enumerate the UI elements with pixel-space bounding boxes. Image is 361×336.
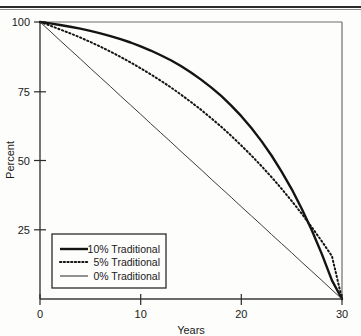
y-tick-label-75: 75 <box>18 86 30 98</box>
x-tick-label-10: 10 <box>135 308 147 320</box>
y-tick-label-25: 25 <box>18 224 30 236</box>
y-tick-label-50: 50 <box>18 155 30 167</box>
x-axis-title: Years <box>177 324 205 336</box>
legend-label-5-percent: 5% Traditional <box>93 256 160 268</box>
line-chart: 100 75 50 25 0 10 20 30 Years Percent 10… <box>0 0 361 336</box>
x-tick-label-30: 30 <box>336 308 348 320</box>
y-tick-label-100: 100 <box>12 16 30 28</box>
legend[interactable]: 10% Traditional 5% Traditional 0% Tradit… <box>52 234 166 288</box>
y-axis-title: Percent <box>4 141 16 179</box>
chart-page: 100 75 50 25 0 10 20 30 Years Percent 10… <box>0 0 361 336</box>
legend-label-0-percent: 0% Traditional <box>93 270 160 282</box>
x-tick-label-0: 0 <box>37 308 43 320</box>
legend-label-10-percent: 10% Traditional <box>88 243 160 255</box>
x-tick-label-20: 20 <box>235 308 247 320</box>
